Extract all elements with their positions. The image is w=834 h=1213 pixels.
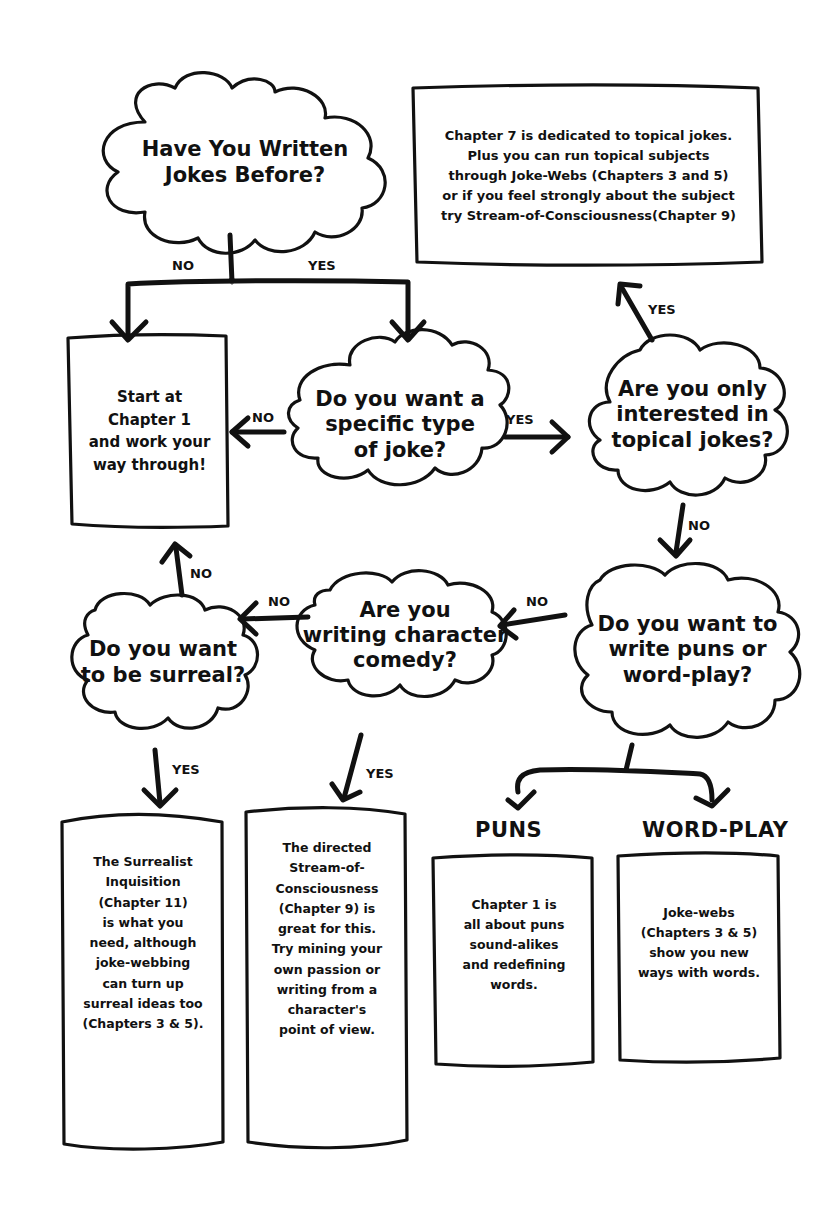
question-line: Are you only	[618, 377, 767, 402]
question-line: to be surreal?	[81, 663, 245, 688]
outcome-start-at-chapter-1: Start at Chapter 1 and work your way thr…	[72, 338, 227, 524]
outcome-line: need, although	[90, 933, 197, 953]
edge-q4-split	[518, 745, 712, 800]
edge-q6-no	[176, 548, 182, 595]
question-line: Jokes Before?	[165, 163, 325, 188]
label-q3-no: NO	[688, 518, 710, 533]
question-line: Do you want a	[315, 387, 485, 412]
outcome-line: Joke-webs	[663, 903, 734, 923]
outcome-wordplay: Joke-webs (Chapters 3 & 5) show you new …	[620, 903, 778, 1003]
label-q6-no: NO	[190, 566, 212, 581]
edge-q5-yes	[344, 735, 361, 798]
outcome-line: all about puns	[464, 915, 565, 935]
label-q2-yes: YES	[506, 412, 534, 427]
outcome-line: way through!	[93, 454, 206, 477]
label-q2-no: NO	[252, 410, 274, 425]
outcome-line: own passion or	[274, 960, 381, 980]
question-character-comedy: Are you writing character comedy?	[300, 588, 510, 683]
question-line: of joke?	[354, 438, 446, 463]
outcome-line: surreal ideas too	[83, 994, 202, 1014]
question-topical-only: Are you only interested in topical jokes…	[600, 365, 785, 465]
outcome-line: joke-webbing	[96, 953, 191, 973]
question-line: comedy?	[353, 648, 457, 673]
question-specific-type: Do you want a specific type of joke?	[305, 375, 495, 475]
outcome-line: (Chapter 11)	[98, 893, 187, 913]
outcome-line: character's	[288, 1000, 367, 1020]
outcome-line: words.	[490, 975, 537, 995]
outcome-line: or if you feel strongly about the subjec…	[442, 186, 735, 206]
outcome-line: The Surrealist	[93, 852, 192, 872]
label-q1-yes: YES	[308, 258, 336, 273]
label-q1-no: NO	[172, 258, 194, 273]
flowchart-canvas: Have You Written Jokes Before? Do you wa…	[0, 0, 834, 1213]
outcome-line: Chapter 7 is dedicated to topical jokes.	[445, 126, 733, 146]
question-line: Do you want to	[598, 612, 778, 637]
outcome-line: is what you	[103, 913, 184, 933]
question-line: interested in	[616, 402, 768, 427]
label-q5-no: NO	[268, 594, 290, 609]
outcome-line: ways with words.	[638, 963, 760, 983]
outcome-line: Chapter 1 is	[471, 895, 556, 915]
question-line: write puns or	[608, 637, 766, 662]
outcome-line: sound-alikes	[470, 935, 559, 955]
label-q3-yes: YES	[648, 302, 676, 317]
question-puns-or-wordplay: Do you want to write puns or word-play?	[585, 600, 790, 700]
outcome-line: (Chapter 9) is	[279, 899, 376, 919]
outcome-line: great for this.	[278, 919, 376, 939]
outcome-topical-jokes: Chapter 7 is dedicated to topical jokes.…	[417, 95, 760, 257]
edge-q5-no	[242, 617, 308, 619]
outcome-line: try Stream-of-Consciousness(Chapter 9)	[441, 206, 736, 226]
label-q5-yes: YES	[366, 766, 394, 781]
heading-puns: PUNS	[475, 818, 542, 842]
question-line: word-play?	[623, 663, 753, 688]
outcome-line: writing from a	[277, 980, 377, 1000]
heading-wordplay: WORD-PLAY	[642, 818, 788, 842]
outcome-line: Stream-of-	[289, 858, 364, 878]
outcome-line: Try mining your	[272, 939, 382, 959]
outcome-line: Start at	[117, 386, 182, 409]
outcome-puns: Chapter 1 is all about puns sound-alikes…	[436, 895, 592, 1015]
question-line: Are you	[359, 598, 450, 623]
label-q6-yes: YES	[172, 762, 200, 777]
question-line: specific type	[325, 412, 475, 437]
question-line: writing character	[303, 623, 508, 648]
question-surreal: Do you want to be surreal?	[68, 625, 258, 700]
outcome-line: and redefining	[463, 955, 566, 975]
edge-q3-no	[676, 505, 683, 552]
label-q4-no: NO	[526, 594, 548, 609]
outcome-line: and work your	[89, 431, 211, 454]
outcome-line: Chapter 1	[108, 409, 191, 432]
outcome-line: can turn up	[102, 974, 183, 994]
outcome-line: The directed	[283, 838, 372, 858]
edge-q6-yes	[155, 750, 160, 803]
outcome-line: through Joke-Webs (Chapters 3 and 5)	[448, 166, 728, 186]
outcome-line: show you new	[649, 943, 749, 963]
outcome-directed-stream-of-consciousness: The directed Stream-of- Consciousness (C…	[248, 838, 406, 1068]
outcome-line: point of view.	[279, 1020, 375, 1040]
arrow-puns-head	[508, 792, 534, 808]
outcome-surrealist-inquisition: The Surrealist Inquisition (Chapter 11) …	[64, 852, 222, 1052]
outcome-line: Plus you can run topical subjects	[468, 146, 710, 166]
question-written-jokes-before: Have You Written Jokes Before?	[130, 125, 360, 200]
outcome-line: (Chapters 3 & 5).	[82, 1014, 203, 1034]
outcome-line: (Chapters 3 & 5)	[641, 923, 757, 943]
outcome-line: Inquisition	[105, 872, 180, 892]
question-line: Have You Written	[142, 137, 349, 162]
question-line: topical jokes?	[612, 428, 774, 453]
question-line: Do you want	[89, 637, 237, 662]
outcome-line: Consciousness	[276, 879, 379, 899]
